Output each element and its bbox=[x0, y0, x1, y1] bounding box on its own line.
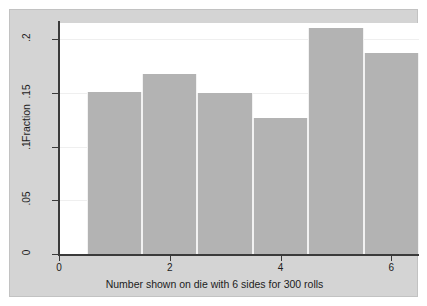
bar-2 bbox=[142, 74, 197, 255]
x-tick-label: 4 bbox=[269, 262, 293, 273]
bar-4 bbox=[253, 118, 308, 254]
bar-6 bbox=[364, 53, 419, 254]
y-tick bbox=[52, 254, 58, 255]
y-tick-label: 0 bbox=[21, 233, 32, 273]
gridline bbox=[59, 39, 419, 40]
y-tick bbox=[52, 200, 58, 201]
x-tick bbox=[170, 256, 171, 261]
x-tick bbox=[59, 256, 60, 261]
y-tick bbox=[52, 39, 58, 40]
figure-panel: 0.05.1.15.2 0246 Fraction Number shown o… bbox=[9, 9, 418, 297]
bar-1 bbox=[87, 92, 142, 254]
y-tick bbox=[52, 93, 58, 94]
y-axis-line bbox=[58, 21, 60, 256]
x-axis-title: Number shown on die with 6 sides for 300… bbox=[10, 278, 419, 290]
x-tick-label: 6 bbox=[379, 262, 403, 273]
x-tick-label: 2 bbox=[158, 262, 182, 273]
bar-5 bbox=[308, 28, 363, 254]
y-tick-label: .05 bbox=[21, 179, 32, 219]
x-axis-line bbox=[58, 254, 419, 256]
bar-3 bbox=[197, 93, 252, 254]
x-tick-label: 0 bbox=[47, 262, 71, 273]
x-tick bbox=[281, 256, 282, 261]
y-axis-title: Fraction bbox=[20, 68, 32, 178]
y-tick-label: .2 bbox=[21, 18, 32, 58]
plot-area bbox=[59, 23, 419, 254]
x-tick bbox=[391, 256, 392, 261]
y-tick bbox=[52, 147, 58, 148]
